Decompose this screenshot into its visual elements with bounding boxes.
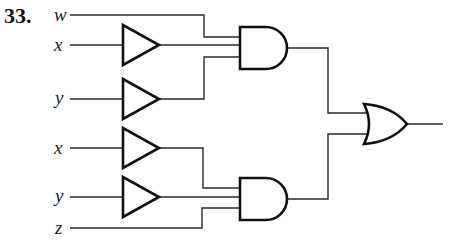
input-label-x-2: x [53, 137, 63, 158]
wire-buf2-out [159, 57, 241, 99]
problem-number: 33. [4, 3, 32, 28]
buffer-gate-2 [123, 79, 159, 119]
buffer-gate-4 [123, 177, 159, 217]
wire-buf3-out [159, 148, 241, 188]
buffer-gate-3 [123, 128, 159, 168]
wire-and1-out [287, 48, 368, 113]
wire-and2-out [287, 134, 368, 199]
input-label-x-1: x [53, 34, 63, 55]
and-gate-1 [240, 27, 287, 69]
buffer-gate-1 [123, 25, 159, 65]
wire-z [70, 208, 241, 228]
logic-circuit-diagram: 33. w x y x y z [0, 0, 464, 244]
and-gate-2 [240, 178, 287, 220]
input-label-y-1: y [53, 87, 64, 108]
input-label-y-2: y [53, 185, 64, 206]
or-gate [364, 104, 407, 144]
input-label-z: z [54, 217, 63, 238]
input-label-w: w [54, 4, 67, 25]
wire-w [70, 15, 241, 37]
